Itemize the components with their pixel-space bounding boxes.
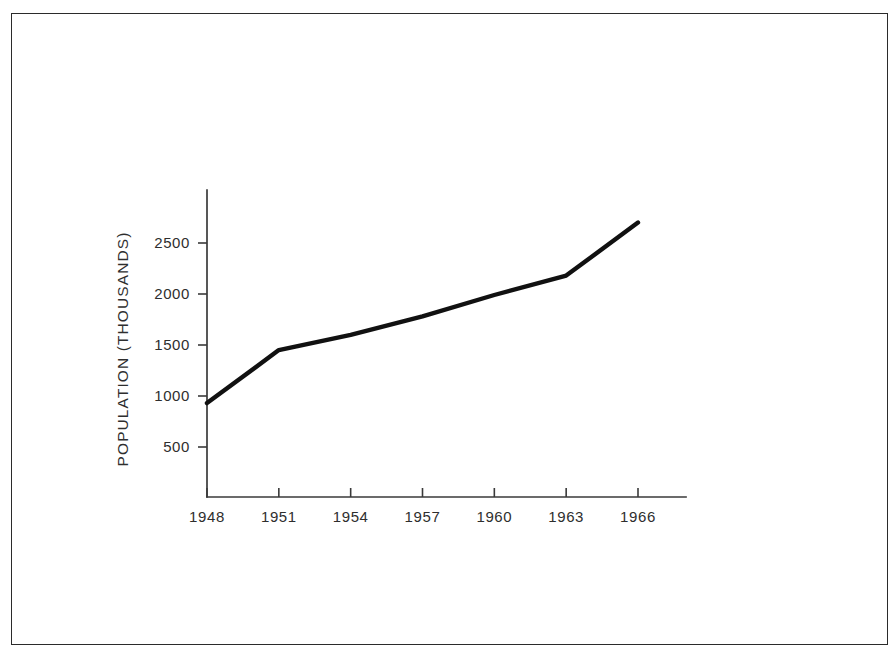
population-line-series [207,223,638,404]
y-tick-label: 500 [163,438,190,455]
y-axis-title: POPULATION (THOUSANDS) [114,232,131,467]
x-tick-label: 1957 [405,508,441,525]
x-tick-label: 1960 [476,508,512,525]
y-tick-label: 1500 [154,336,190,353]
x-tick-label: 1963 [548,508,584,525]
chart-svg: POPULATION (THOUSANDS) 50010001500200025… [0,0,896,649]
y-tick-label: 2000 [154,285,190,302]
line-chart: POPULATION (THOUSANDS) 50010001500200025… [0,0,896,649]
x-tick-label: 1966 [620,508,656,525]
x-tick-label: 1954 [333,508,369,525]
axes [207,190,686,497]
x-tick-label: 1948 [189,508,225,525]
x-tick-label: 1951 [261,508,297,525]
chart-page: POPULATION (THOUSANDS) 50010001500200025… [0,0,896,649]
y-axis-ticks: 5001000150020002500 [154,234,207,455]
y-tick-label: 2500 [154,234,190,251]
y-tick-label: 1000 [154,387,190,404]
x-axis-ticks: 1948195119541957196019631966 [189,488,656,525]
